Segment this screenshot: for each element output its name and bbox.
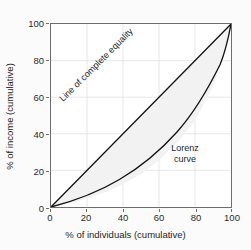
y-tick-label-100: 100 xyxy=(20,19,44,29)
equality-line-path xyxy=(51,24,231,207)
y-tickmark-40 xyxy=(46,134,49,135)
x-tick-label-40: 40 xyxy=(110,213,136,223)
y-axis-title-container: % of income (cumulative) xyxy=(0,0,18,232)
x-tick-label-80: 80 xyxy=(183,213,209,223)
x-tick-label-60: 60 xyxy=(146,213,172,223)
y-tickmark-20 xyxy=(46,171,49,172)
plot-area xyxy=(50,23,232,208)
x-tick-label-0: 0 xyxy=(37,213,63,223)
lorenz-annotation-line-1: Lorenz xyxy=(163,143,207,154)
y-tick-label-80: 80 xyxy=(20,56,44,66)
y-tick-label-40: 40 xyxy=(20,130,44,140)
y-tickmark-80 xyxy=(46,60,49,61)
x-tick-label-100: 100 xyxy=(219,213,245,223)
plot-svg xyxy=(51,24,231,207)
y-tickmark-60 xyxy=(46,97,49,98)
lorenz-curve-figure: % of income (cumulative) 100 80 60 40 20… xyxy=(0,0,251,250)
y-axis-title: % of income (cumulative) xyxy=(4,63,15,170)
y-tick-label-20: 20 xyxy=(20,167,44,177)
lorenz-annotation-line-2: curve xyxy=(163,154,207,165)
lorenz-curve-annotation: Lorenz curve xyxy=(163,143,207,165)
y-tickmark-0 xyxy=(46,208,49,209)
y-tick-label-60: 60 xyxy=(20,93,44,103)
x-tick-label-20: 20 xyxy=(73,213,99,223)
x-axis-title: % of individuals (cumulative) xyxy=(0,229,251,240)
y-tickmark-100 xyxy=(46,23,49,24)
